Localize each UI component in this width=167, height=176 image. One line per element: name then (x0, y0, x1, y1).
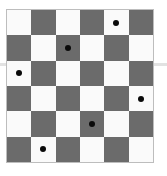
piece-dot-icon (113, 20, 119, 26)
board-cell-r2-c2[interactable] (56, 61, 80, 86)
board-cell-r5-c2[interactable] (56, 137, 80, 162)
board-cell-r3-c1[interactable] (31, 86, 55, 111)
board-cell-r5-c3[interactable] (80, 137, 104, 162)
board-cell-r1-c5[interactable] (129, 35, 153, 60)
board-cell-r5-c5[interactable] (129, 137, 153, 162)
board-cell-r1-c0[interactable] (7, 35, 31, 60)
board-cell-r0-c2[interactable] (56, 10, 80, 35)
piece-dot-icon (138, 96, 144, 102)
piece-dot-icon (65, 45, 71, 51)
board-cell-r4-c2[interactable] (56, 111, 80, 136)
board-cell-r1-c1[interactable] (31, 35, 55, 60)
board-cell-r2-c1[interactable] (31, 61, 55, 86)
board-cell-r3-c5[interactable] (129, 86, 153, 111)
board-cell-r3-c4[interactable] (104, 86, 128, 111)
board-cell-r2-c5[interactable] (129, 61, 153, 86)
board-cell-r2-c4[interactable] (104, 61, 128, 86)
board-cell-r5-c4[interactable] (104, 137, 128, 162)
board-cell-r0-c0[interactable] (7, 10, 31, 35)
board-cell-r4-c3[interactable] (80, 111, 104, 136)
board-cell-r1-c2[interactable] (56, 35, 80, 60)
board-cell-r5-c1[interactable] (31, 137, 55, 162)
board-cell-r2-c3[interactable] (80, 61, 104, 86)
board-cell-r3-c3[interactable] (80, 86, 104, 111)
board-cell-r1-c3[interactable] (80, 35, 104, 60)
board-cell-r0-c4[interactable] (104, 10, 128, 35)
board-cell-r4-c1[interactable] (31, 111, 55, 136)
board-cell-r2-c0[interactable] (7, 61, 31, 86)
piece-dot-icon (16, 70, 22, 76)
board-cell-r4-c0[interactable] (7, 111, 31, 136)
board-cell-r3-c2[interactable] (56, 86, 80, 111)
board-cell-r0-c5[interactable] (129, 10, 153, 35)
board-cell-r0-c1[interactable] (31, 10, 55, 35)
piece-dot-icon (89, 121, 95, 127)
board-cell-r5-c0[interactable] (7, 137, 31, 162)
board-cell-r4-c5[interactable] (129, 111, 153, 136)
board-cell-r3-c0[interactable] (7, 86, 31, 111)
checkerboard (6, 9, 154, 163)
board-cell-r4-c4[interactable] (104, 111, 128, 136)
piece-dot-icon (40, 146, 46, 152)
board-cell-r0-c3[interactable] (80, 10, 104, 35)
board-cell-r1-c4[interactable] (104, 35, 128, 60)
